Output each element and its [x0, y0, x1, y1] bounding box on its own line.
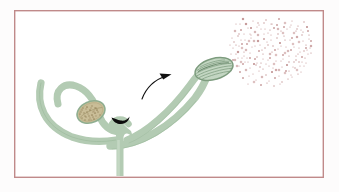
anther-speck: [83, 112, 84, 113]
pollen-grain: [290, 49, 292, 51]
anther-speck: [94, 107, 95, 108]
pollen-grain: [297, 53, 298, 54]
pollen-grain: [242, 77, 244, 79]
pollen-grain: [300, 71, 301, 72]
pollen-grain: [247, 61, 248, 62]
pollen-grain: [256, 56, 258, 58]
pollen-grain: [239, 23, 240, 24]
pollen-grain: [299, 65, 300, 66]
pollen-grain: [290, 74, 291, 75]
anther-speck: [97, 111, 98, 112]
pollen-grain: [267, 59, 268, 60]
pollen-grain: [277, 48, 278, 49]
pollen-grain: [247, 83, 248, 84]
pollen-grain: [283, 35, 284, 36]
pollen-grain: [274, 77, 276, 79]
pollen-grain: [252, 20, 253, 21]
pollen-grain: [255, 64, 257, 66]
pollen-grain: [306, 49, 307, 50]
anther-speck: [86, 106, 88, 108]
pollen-grain: [274, 49, 276, 51]
pollen-grain: [249, 67, 250, 68]
anther-speck: [84, 119, 85, 120]
pollen-grain: [293, 61, 295, 63]
pollen-grain: [309, 47, 310, 48]
anther-speck: [96, 109, 98, 111]
pollen-grain: [268, 80, 269, 81]
pollen-grain: [267, 32, 268, 33]
pollen-grain: [278, 75, 279, 76]
anther-speck: [81, 117, 83, 119]
pollen-grain: [258, 24, 259, 25]
anther-speck: [92, 111, 93, 112]
pollen-grain: [304, 57, 305, 58]
pollen-grain: [281, 81, 283, 83]
pollen-grain: [259, 44, 260, 45]
pollen-grain: [295, 55, 296, 56]
pollen-grain: [254, 45, 255, 46]
pollen-grain: [232, 47, 233, 48]
pollen-grain: [310, 40, 312, 42]
pollen-grain: [288, 55, 289, 56]
pollen-grain: [298, 61, 300, 63]
pollen-grain: [278, 18, 280, 20]
pollen-grain: [280, 60, 281, 61]
pollen-grain: [230, 53, 231, 54]
anther-speck: [80, 111, 81, 112]
anther-speck: [95, 115, 96, 116]
pollen-grain: [285, 46, 286, 47]
pollen-grain: [256, 26, 257, 27]
pollen-grain: [263, 38, 265, 40]
pollen-grain: [250, 37, 251, 38]
pollen-grain: [287, 78, 288, 79]
pollen-grain: [235, 23, 236, 24]
pollen-grain: [260, 28, 261, 29]
pollen-grain: [252, 73, 253, 74]
anther-speck: [91, 114, 93, 116]
pollen-grain: [279, 83, 280, 84]
pollen-release-diagram: [0, 0, 339, 192]
pollen-grain: [294, 67, 296, 69]
anther-speck: [94, 112, 96, 114]
pollen-grain: [262, 68, 263, 69]
pollen-grain: [283, 26, 285, 28]
pollen-grain: [233, 41, 235, 43]
anther-speck: [88, 119, 89, 120]
pollen-grain: [301, 34, 303, 36]
pollen-grain: [280, 45, 281, 46]
pollen-grain: [263, 22, 265, 24]
pollen-grain: [259, 66, 261, 68]
pollen-grain: [265, 19, 267, 21]
pollen-grain: [253, 63, 255, 65]
anther-speck: [81, 109, 82, 110]
pollen-grain: [260, 84, 262, 86]
pollen-grain: [235, 53, 236, 54]
pollen-grain: [298, 47, 299, 48]
pollen-grain: [296, 28, 298, 30]
pollen-grain: [264, 28, 265, 29]
pollen-grain: [235, 44, 236, 45]
pollen-grain: [241, 43, 243, 45]
anther-speck: [90, 119, 91, 120]
anther-speck: [85, 108, 86, 109]
pollen-grain: [297, 73, 298, 74]
anther-speck: [89, 117, 90, 118]
pollen-grain: [290, 24, 291, 25]
pollen-grain: [303, 21, 305, 23]
pollen-grain: [243, 51, 244, 52]
pollen-grain: [251, 46, 252, 47]
pollen-grain: [244, 61, 245, 62]
pollen-grain: [265, 63, 266, 64]
pollen-grain: [239, 71, 241, 73]
pollen-grain: [284, 39, 285, 40]
anther-speck: [91, 105, 92, 106]
pollen-grain: [258, 70, 259, 71]
anther-speck: [93, 110, 94, 111]
pollen-grain: [270, 34, 271, 35]
pollen-grain: [282, 58, 283, 59]
pollen-grain: [242, 63, 244, 65]
pollen-grain: [240, 39, 241, 40]
pollen-grain: [285, 70, 287, 72]
anther-speck: [88, 115, 89, 116]
pollen-grain: [291, 37, 293, 39]
